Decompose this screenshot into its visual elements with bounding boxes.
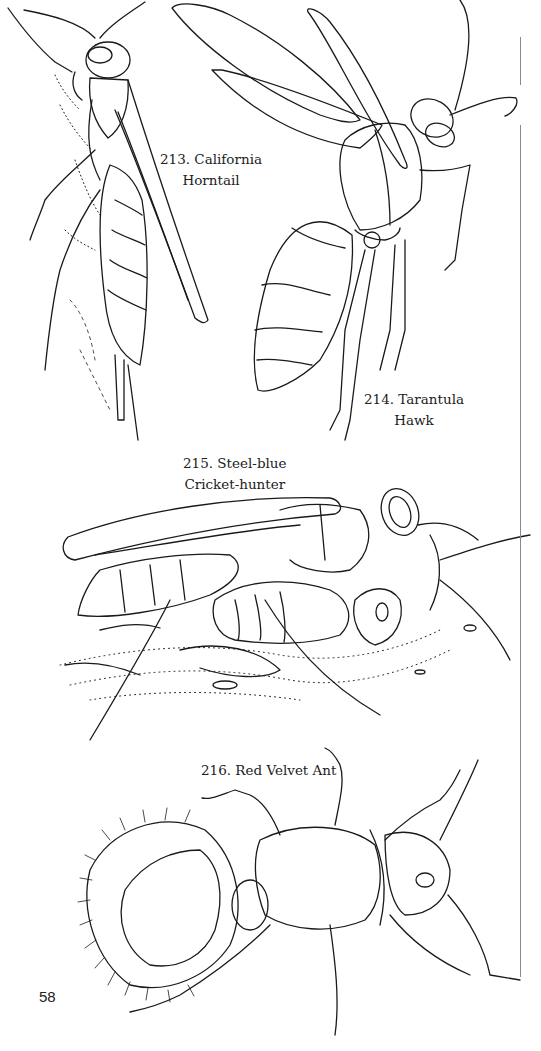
caption-213-line1: 213. California (160, 149, 262, 170)
caption-216: 216. Red Velvet Ant (201, 760, 336, 781)
red-velvet-ant-drawing (78, 748, 520, 1035)
caption-216-line1: 216. Red Velvet Ant (201, 760, 336, 781)
caption-215-line1: 215. Steel-blue (183, 453, 287, 474)
caption-215-line2: Cricket-hunter (183, 474, 287, 495)
caption-213: 213. California Horntail (160, 149, 262, 191)
caption-214-line1: 214. Tarantula (364, 389, 464, 410)
california-horntail-drawing (8, 2, 208, 440)
caption-213-line2: Horntail (160, 170, 262, 191)
coloring-page-artwork (0, 0, 541, 1051)
caption-214-line2: Hawk (364, 410, 464, 431)
caption-215: 215. Steel-blue Cricket-hunter (183, 453, 287, 495)
margin-rule-gap (518, 85, 523, 125)
caption-214: 214. Tarantula Hawk (364, 389, 464, 431)
page-number: 58 (39, 988, 56, 1005)
steel-blue-cricket-hunter-drawing (60, 483, 530, 740)
margin-rule-line (520, 37, 521, 977)
tarantula-hawk-drawing (172, 0, 517, 440)
